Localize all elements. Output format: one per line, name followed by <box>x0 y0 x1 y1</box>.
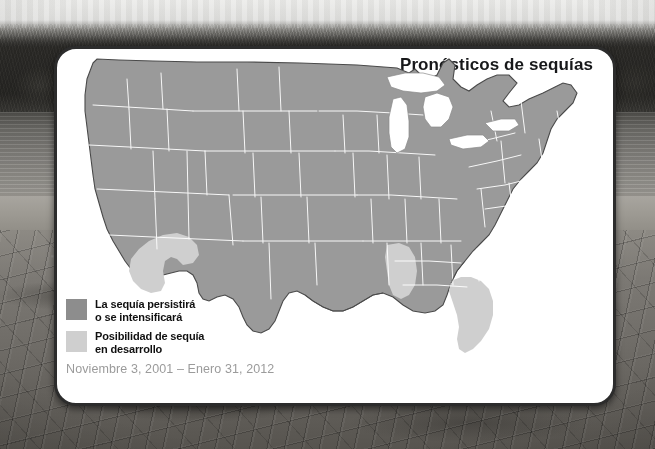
legend-date-range: Noviembre 3, 2001 – Enero 31, 2012 <box>66 362 326 376</box>
legend-item-developing: Posibilidad de sequía en desarrollo <box>66 330 326 355</box>
map-land-layer <box>85 59 577 333</box>
legend-swatch-developing <box>66 331 87 352</box>
drought-forecast-card: Pronósticos de sequías <box>54 46 616 406</box>
lake-michigan <box>389 97 409 153</box>
contiguous-us-landmass <box>85 59 577 333</box>
screenshot-stage: Pronósticos de sequías <box>0 0 655 449</box>
legend-label-developing-line1: Posibilidad de sequía <box>95 330 204 343</box>
legend-label-persist-line1: La sequía persistirá <box>95 298 195 311</box>
developing-area-florida <box>449 277 493 353</box>
legend-label-developing-line2: en desarrollo <box>95 343 204 356</box>
map-legend: La sequía persistirá o se intensificará … <box>66 298 326 376</box>
legend-label-developing: Posibilidad de sequía en desarrollo <box>95 330 204 355</box>
legend-label-persist-line2: o se intensificará <box>95 311 195 324</box>
legend-swatch-persist <box>66 299 87 320</box>
legend-label-persist: La sequía persistirá o se intensificará <box>95 298 195 323</box>
legend-item-persist: La sequía persistirá o se intensificará <box>66 298 326 323</box>
